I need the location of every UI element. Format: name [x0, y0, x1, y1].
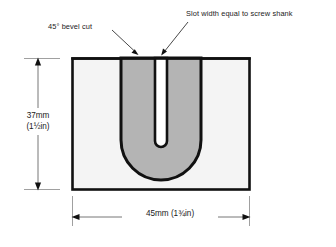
diagram-canvas: 45° bevel cut Slot width equal to screw …	[0, 0, 336, 247]
dimension-height-label: 37mm (1½in)	[12, 110, 64, 132]
dimension-height-metric: 37mm	[12, 110, 64, 121]
dimension-width-label: 45mm (1¾in)	[122, 208, 218, 219]
leader-bevel-cut	[112, 30, 139, 55]
callout-bevel-cut-label: 45° bevel cut	[48, 22, 92, 31]
callout-slot-width-label: Slot width equal to screw shank	[186, 9, 293, 18]
slot-channel	[155, 58, 167, 147]
dimension-height-imperial: (1½in)	[12, 121, 64, 132]
leader-slot-width	[161, 22, 188, 55]
